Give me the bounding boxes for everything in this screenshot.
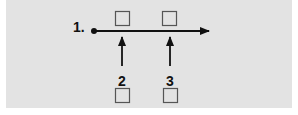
arrow-label-3: 3 xyxy=(166,73,174,89)
diagram-canvas: 1. 2 3 xyxy=(0,0,298,115)
bottom-box-1[interactable] xyxy=(116,89,130,103)
bottom-box-2[interactable] xyxy=(164,89,178,103)
top-box-2[interactable] xyxy=(163,12,177,26)
main-line-label: 1. xyxy=(73,19,85,35)
arrow-label-2: 2 xyxy=(118,73,126,89)
top-box-1[interactable] xyxy=(116,12,130,26)
